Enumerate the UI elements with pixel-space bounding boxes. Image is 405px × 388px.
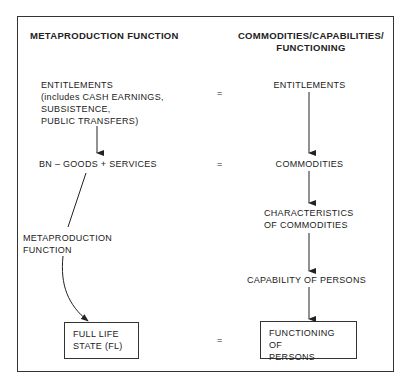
connector-line (68, 173, 86, 227)
curved-arrow-icon (62, 256, 88, 321)
arrows-layer (0, 0, 405, 388)
